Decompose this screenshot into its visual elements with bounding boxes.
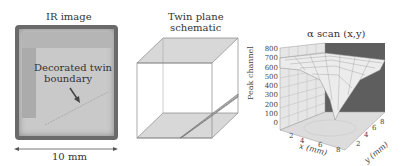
x-tick: 2 <box>289 132 293 140</box>
y-tick: 8 <box>380 118 384 126</box>
z-axis-ticks: 800700 600500 400300 200100 0 <box>264 45 278 129</box>
y-tick: 4 <box>364 131 368 139</box>
y-tick: 6 <box>372 124 376 132</box>
surface-plot <box>0 0 403 166</box>
y-tick: 2 <box>356 140 360 148</box>
z-axis-label: Peak channel <box>246 46 255 100</box>
x-tick: 8 <box>336 146 340 154</box>
